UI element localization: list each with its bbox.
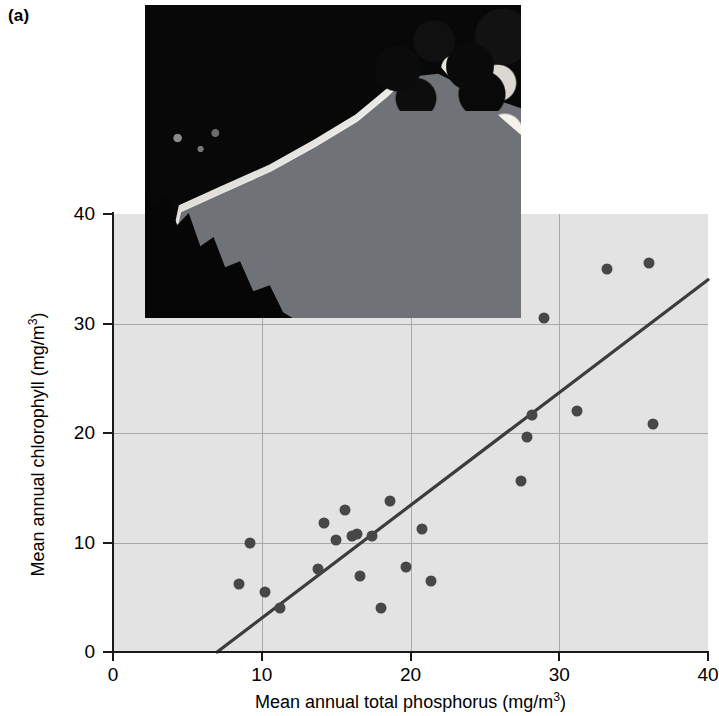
y-tick	[103, 542, 113, 544]
y-tick-label: 20	[55, 422, 95, 444]
scatter-point	[572, 406, 583, 417]
x-axis-label: Mean annual total phosphorus (mg/m3)	[113, 690, 708, 713]
scatter-point	[539, 313, 550, 324]
scatter-point	[351, 528, 362, 539]
reservoir-shoreline-photo-inset	[145, 5, 521, 318]
scatter-point	[366, 530, 377, 541]
y-axis-label-tail: )	[28, 313, 48, 319]
scatter-point	[354, 571, 365, 582]
photo-tree-canopy	[371, 5, 521, 111]
y-axis-label-text: Mean annual chlorophyll (mg/m	[28, 325, 48, 576]
y-tick	[103, 323, 113, 325]
x-tick	[410, 651, 412, 661]
scatter-point	[259, 586, 270, 597]
x-tick	[261, 651, 263, 661]
scatter-point	[426, 575, 437, 586]
scatter-point	[244, 537, 255, 548]
scatter-point	[515, 476, 526, 487]
x-tick-label: 10	[237, 664, 287, 686]
scatter-point	[274, 603, 285, 614]
y-axis-label: Mean annual chlorophyll (mg/m3)	[26, 245, 49, 645]
y-tick	[103, 432, 113, 434]
photo-shore-detail	[153, 118, 236, 168]
x-tick	[112, 651, 114, 661]
x-tick-label: 30	[534, 664, 584, 686]
x-tick-label: 40	[683, 664, 719, 686]
y-tick-label: 10	[55, 532, 95, 554]
scatter-point	[375, 603, 386, 614]
scatter-point	[319, 517, 330, 528]
scatter-point	[601, 263, 612, 274]
y-tick	[103, 213, 113, 215]
scatter-point	[384, 495, 395, 506]
figure-panel-a: (a) 010203040 010203040 Mean annual chlo…	[0, 0, 719, 716]
y-tick-label: 0	[55, 641, 95, 663]
x-tick	[558, 651, 560, 661]
y-tick-label: 30	[55, 313, 95, 335]
y-axis-label-exponent: 3	[26, 319, 40, 326]
scatter-point	[527, 410, 538, 421]
scatter-point	[643, 258, 654, 269]
scatter-point	[647, 419, 658, 430]
scatter-point	[313, 563, 324, 574]
x-tick-label: 0	[88, 664, 138, 686]
x-axis-label-exponent: 3	[553, 690, 560, 704]
panel-label: (a)	[8, 6, 29, 26]
x-tick-label: 20	[386, 664, 436, 686]
x-axis-label-tail: )	[560, 692, 566, 712]
x-axis-label-text: Mean annual total phosphorus (mg/m	[255, 692, 553, 712]
scatter-point	[340, 504, 351, 515]
scatter-point	[234, 579, 245, 590]
scatter-point	[521, 432, 532, 443]
y-tick-label: 40	[55, 203, 95, 225]
scatter-point	[331, 535, 342, 546]
scatter-point	[417, 524, 428, 535]
scatter-point	[401, 561, 412, 572]
x-tick	[707, 651, 709, 661]
